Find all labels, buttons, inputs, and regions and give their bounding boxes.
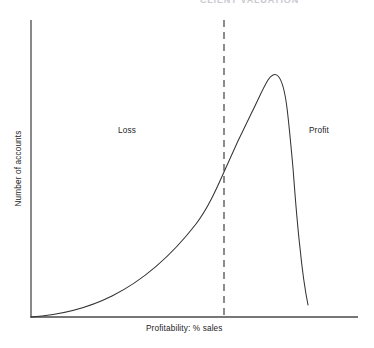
profit-region-label: Profit <box>309 126 329 135</box>
loss-region-label: Loss <box>118 126 136 135</box>
chart-figure: CLIENT VALUATION Number of accounts Prof… <box>0 0 374 348</box>
account-distribution-curve <box>31 75 308 317</box>
plot-canvas <box>0 0 374 348</box>
y-axis-label: Number of accounts <box>14 109 23 229</box>
x-axis-label: Profitability: % sales <box>0 324 374 333</box>
